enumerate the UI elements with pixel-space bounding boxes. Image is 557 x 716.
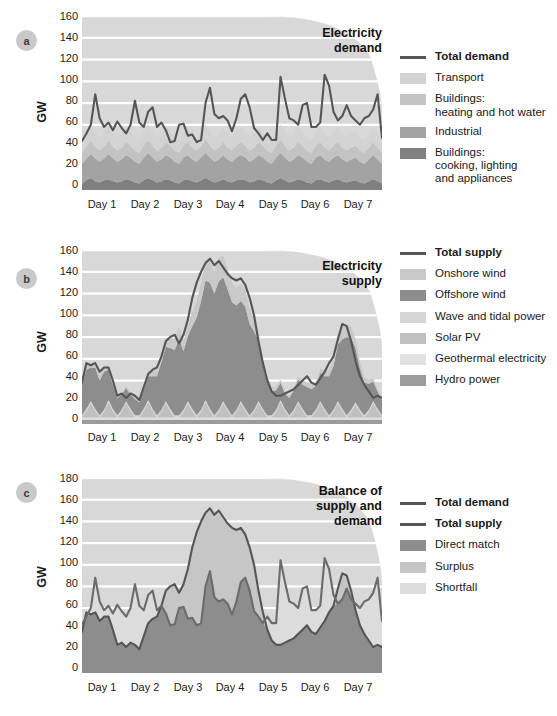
legend-item-label: Total supply <box>435 517 502 530</box>
y-tick: 100 <box>60 74 78 85</box>
legend-item[interactable]: Total supply <box>400 246 555 259</box>
y-tick: 140 <box>60 515 78 526</box>
y-tick: 120 <box>60 287 78 298</box>
legend-item[interactable]: Onshore wind <box>400 267 555 280</box>
legend-item-label: Geothermal electricity <box>435 352 546 365</box>
legend-item[interactable]: Buildings: heating and hot water <box>400 92 555 118</box>
panel-badge-b: b <box>16 268 37 289</box>
y-tick: 80 <box>66 95 78 106</box>
figure-root: a GW 160 140 120 100 80 60 40 20 0 Day 1… <box>0 0 557 716</box>
legend-a: Total demandTransportBuildings: heating … <box>400 50 555 192</box>
x-tick: Day 7 <box>332 198 384 210</box>
legend-line-icon <box>400 523 426 526</box>
legend-b: Total supplyOnshore windOffshore windWav… <box>400 246 555 394</box>
legend-item-label: Onshore wind <box>435 267 506 280</box>
legend-line-icon <box>400 56 426 59</box>
legend-item-label: Total demand <box>435 50 509 63</box>
y-tick: 160 <box>60 245 78 256</box>
y-tick: 100 <box>60 308 78 319</box>
legend-color-swatch <box>400 562 426 573</box>
y-tick: 180 <box>60 473 78 484</box>
legend-item[interactable]: Total supply <box>400 517 555 530</box>
y-tick: 160 <box>60 11 78 22</box>
legend-item-label: Total demand <box>435 496 509 509</box>
y-tick: 0 <box>72 662 78 673</box>
panel-title-a: Electricity demand <box>290 26 382 56</box>
y-axis-title-c: GW <box>35 557 49 597</box>
legend-color-swatch <box>400 333 426 344</box>
y-tick: 140 <box>60 266 78 277</box>
legend-item[interactable]: Hydro power <box>400 373 555 386</box>
legend-item-label: Offshore wind <box>435 288 506 301</box>
y-tick: 60 <box>66 599 78 610</box>
legend-item-label: Total supply <box>435 246 502 259</box>
y-tick: 60 <box>66 116 78 127</box>
y-tick: 100 <box>60 557 78 568</box>
legend-item-label: Buildings: cooking, lighting and applian… <box>435 146 517 186</box>
legend-color-swatch <box>400 540 426 551</box>
x-tick: Day 7 <box>332 431 384 443</box>
y-tick: 0 <box>72 179 78 190</box>
legend-line-marker <box>400 248 426 259</box>
legend-color-swatch <box>400 94 426 105</box>
panel-badge-a: a <box>16 30 37 51</box>
legend-item[interactable]: Solar PV <box>400 331 555 344</box>
legend-color-swatch <box>400 127 426 138</box>
y-axis-title-a: GW <box>35 92 49 132</box>
panel-title-c: Balance of supply and demand <box>280 484 382 529</box>
y-tick: 120 <box>60 53 78 64</box>
legend-item-label: Surplus <box>435 560 474 573</box>
legend-color-swatch <box>400 312 426 323</box>
y-tick: 80 <box>66 329 78 340</box>
legend-color-swatch <box>400 354 426 365</box>
y-tick: 140 <box>60 32 78 43</box>
y-tick: 40 <box>66 620 78 631</box>
legend-c: Total demandTotal supplyDirect matchSurp… <box>400 496 555 602</box>
y-tick: 120 <box>60 536 78 547</box>
panel-badge-c: c <box>16 482 37 503</box>
legend-line-marker <box>400 52 426 63</box>
y-tick: 40 <box>66 137 78 148</box>
legend-item[interactable]: Surplus <box>400 560 555 573</box>
legend-item[interactable]: Wave and tidal power <box>400 310 555 323</box>
y-axis-title-b: GW <box>35 322 49 362</box>
legend-item[interactable]: Direct match <box>400 538 555 551</box>
legend-color-swatch <box>400 269 426 280</box>
legend-item[interactable]: Transport <box>400 71 555 84</box>
y-tick: 40 <box>66 371 78 382</box>
legend-color-swatch <box>400 375 426 386</box>
y-tick: 0 <box>72 413 78 424</box>
legend-item[interactable]: Buildings: cooking, lighting and applian… <box>400 146 555 186</box>
y-tick: 80 <box>66 578 78 589</box>
legend-color-swatch <box>400 290 426 301</box>
panel-balance-supply-demand: c GW 180 160 140 120 100 80 60 40 20 0 D… <box>0 460 557 716</box>
legend-item-label: Buildings: heating and hot water <box>435 92 546 118</box>
legend-item[interactable]: Geothermal electricity <box>400 352 555 365</box>
legend-item-label: Shortfall <box>435 581 477 594</box>
y-tick: 20 <box>66 392 78 403</box>
y-tick: 20 <box>66 158 78 169</box>
panel-title-b: Electricity supply <box>288 259 382 289</box>
panel-electricity-supply: b GW 160 140 120 100 80 60 40 20 0 Day 1… <box>0 235 557 460</box>
legend-item-label: Wave and tidal power <box>435 310 545 323</box>
y-tick: 60 <box>66 350 78 361</box>
legend-item-label: Solar PV <box>435 331 480 344</box>
legend-line-icon <box>400 252 426 255</box>
legend-item-label: Direct match <box>435 538 500 551</box>
legend-item[interactable]: Total demand <box>400 50 555 63</box>
legend-color-swatch <box>400 73 426 84</box>
legend-item[interactable]: Shortfall <box>400 581 555 594</box>
legend-item-label: Transport <box>435 71 484 84</box>
legend-item[interactable]: Industrial <box>400 125 555 138</box>
legend-line-icon <box>400 502 426 505</box>
legend-line-marker <box>400 519 426 530</box>
legend-item-label: Industrial <box>435 125 482 138</box>
legend-color-swatch <box>400 148 426 159</box>
legend-line-marker <box>400 498 426 509</box>
y-tick: 160 <box>60 494 78 505</box>
y-tick: 20 <box>66 641 78 652</box>
legend-item[interactable]: Offshore wind <box>400 288 555 301</box>
legend-item[interactable]: Total demand <box>400 496 555 509</box>
x-tick: Day 7 <box>332 681 384 693</box>
legend-item-label: Hydro power <box>435 373 500 386</box>
